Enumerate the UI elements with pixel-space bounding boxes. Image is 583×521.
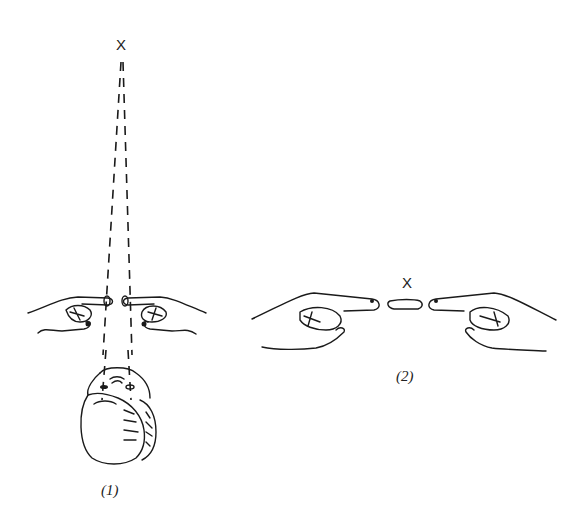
head-top-view (81, 368, 156, 464)
panel-label-2: (2) (396, 368, 414, 385)
illustration-canvas (0, 0, 583, 521)
sight-line-left (103, 62, 121, 355)
sight-line-right (123, 62, 132, 355)
panel-2-drawing (252, 293, 556, 351)
sight-line-right-lower (128, 350, 131, 400)
left-hand-panel-2 (252, 293, 379, 349)
panel-1-drawing (28, 62, 206, 464)
target-marker-panel-1: X (116, 36, 126, 53)
left-hand-panel-1 (28, 296, 113, 333)
right-hand-panel-2 (429, 293, 556, 351)
right-hand-panel-1 (122, 296, 206, 334)
floating-finger-segment (388, 300, 422, 310)
target-marker-panel-2: X (402, 274, 412, 291)
sight-line-left-lower (102, 350, 106, 400)
panel-label-1: (1) (101, 482, 119, 499)
